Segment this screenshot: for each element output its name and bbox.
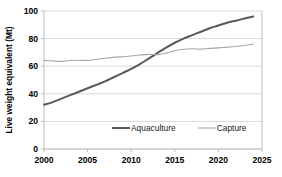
y-tick-label-40: 40 (28, 89, 38, 99)
x-tick-label-2025: 2025 (252, 155, 271, 165)
x-axis-tick-labels: 200020052010201520202025 (34, 155, 271, 165)
y-axis-title: Live weight equivalent (Mt) (4, 26, 14, 133)
y-tick-label-80: 80 (28, 34, 38, 44)
line-chart: 020406080100 200020052010201520202025 Li… (0, 0, 282, 177)
x-tick-label-2015: 2015 (165, 155, 184, 165)
y-tick-label-100: 100 (24, 6, 39, 16)
y-axis-title-text: Live weight equivalent (Mt) (4, 26, 14, 133)
legend-label-aquaculture: Aquaculture (131, 123, 176, 133)
y-tick-label-0: 0 (33, 144, 38, 154)
y-axis-tick-labels: 020406080100 (24, 6, 39, 154)
x-tick-label-2000: 2000 (34, 155, 53, 165)
x-tick-label-2020: 2020 (209, 155, 228, 165)
x-tick-label-2010: 2010 (122, 155, 141, 165)
x-tick-label-2005: 2005 (78, 155, 97, 165)
chart-container: 020406080100 200020052010201520202025 Li… (0, 0, 282, 177)
y-tick-label-20: 20 (28, 116, 38, 126)
y-tick-label-60: 60 (28, 61, 38, 71)
legend-label-capture: Capture (217, 123, 247, 133)
